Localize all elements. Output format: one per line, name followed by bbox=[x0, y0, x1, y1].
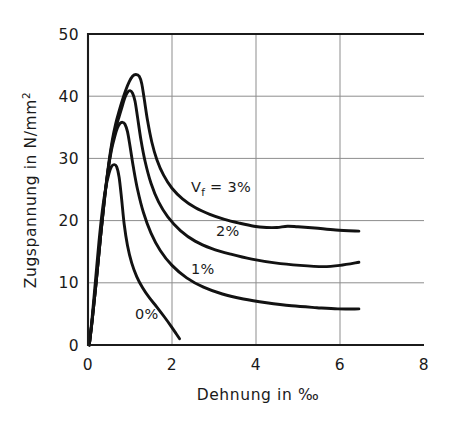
y-axis-title-exponent: 2 bbox=[20, 92, 32, 99]
y-tick-label: 40 bbox=[58, 88, 79, 106]
svg-text:Zugspannung in N/mm2: Zugspannung in N/mm2 bbox=[20, 92, 40, 289]
chart-background bbox=[0, 0, 454, 421]
x-axis-title: Dehnung in ‰ bbox=[197, 386, 320, 404]
y-tick-label: 50 bbox=[58, 26, 79, 44]
y-tick-label: 10 bbox=[58, 274, 79, 292]
x-tick-label: 2 bbox=[167, 356, 177, 374]
y-tick-label: 0 bbox=[69, 337, 79, 355]
series-label-3: 0% bbox=[135, 306, 159, 322]
y-tick-label: 30 bbox=[58, 150, 79, 168]
stress-strain-chart: 01020304050 02468 Zugspannung in N/mm2 D… bbox=[0, 0, 454, 421]
x-tick-label: 6 bbox=[335, 356, 345, 374]
x-tick-label: 8 bbox=[419, 356, 429, 374]
x-tick-label: 0 bbox=[83, 356, 93, 374]
series-label-2: 1% bbox=[191, 261, 215, 277]
figure-container: 01020304050 02468 Zugspannung in N/mm2 D… bbox=[0, 0, 454, 421]
series-label-1: 2% bbox=[216, 223, 240, 239]
y-axis-title-text: Zugspannung in N/mm bbox=[22, 99, 40, 288]
x-tick-label: 4 bbox=[251, 356, 261, 374]
y-axis-title: Zugspannung in N/mm2 bbox=[20, 92, 40, 289]
y-tick-label: 20 bbox=[58, 212, 79, 230]
